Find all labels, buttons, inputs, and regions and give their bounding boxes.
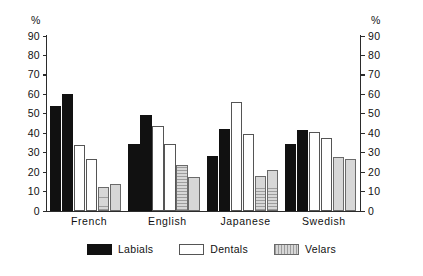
legend-item-dentals: Dentals <box>179 243 248 255</box>
legend-item-labials: Labials <box>87 243 153 255</box>
legend-swatch-icon <box>87 244 112 255</box>
bar-dentals <box>74 145 85 211</box>
left-axis-tick <box>43 172 47 173</box>
right-axis-tick-label: 80 <box>368 50 398 61</box>
baseline-axis <box>46 211 361 212</box>
right-axis-tick-label: 50 <box>368 108 398 119</box>
bar-labials <box>219 129 230 211</box>
bar-labials <box>297 130 308 211</box>
chart-legend: LabialsDentalsVelars <box>0 243 423 255</box>
bar-dentals <box>243 134 254 211</box>
right-axis-tick-label: 30 <box>368 147 398 158</box>
bar-chart: % % 001010202030304040505060607070808090… <box>0 0 423 276</box>
left-axis-tick <box>43 113 47 114</box>
right-axis-tick-label: 60 <box>368 89 398 100</box>
bar-dentals <box>164 144 175 211</box>
left-axis-tick-label: 90 <box>10 31 40 42</box>
left-axis-tick <box>43 94 47 95</box>
legend-swatch-icon <box>179 244 204 255</box>
left-axis-tick <box>43 211 47 212</box>
bar-labials <box>285 144 296 211</box>
left-axis-tick <box>43 74 47 75</box>
bar-velars <box>98 187 109 211</box>
left-axis-tick-label: 40 <box>10 128 40 139</box>
bar-group <box>285 36 363 211</box>
bar-velars <box>110 184 121 211</box>
bar-dentals <box>86 159 97 211</box>
bar-velars <box>176 165 187 211</box>
left-axis-tick <box>43 133 47 134</box>
bar-group <box>50 36 128 211</box>
bar-labials <box>140 115 151 211</box>
bar-velars <box>345 159 356 211</box>
left-axis-tick-label: 0 <box>10 206 40 217</box>
category-label-swedish: Swedish <box>273 215 375 227</box>
left-axis-tick <box>43 191 47 192</box>
bar-labials <box>128 144 139 211</box>
legend-label: Velars <box>305 243 336 255</box>
bar-dentals <box>152 126 163 211</box>
plot-area <box>47 36 360 211</box>
legend-label: Labials <box>118 243 153 255</box>
bar-labials <box>207 156 218 211</box>
left-axis-tick-label: 10 <box>10 186 40 197</box>
left-axis-tick <box>43 152 47 153</box>
bar-velars <box>255 176 266 211</box>
bar-dentals <box>309 132 320 211</box>
bar-velars <box>333 157 344 211</box>
bar-velars <box>267 170 278 211</box>
left-axis-tick-label: 30 <box>10 147 40 158</box>
left-axis-tick-label: 20 <box>10 167 40 178</box>
left-axis-tick <box>43 36 47 37</box>
legend-item-velars: Velars <box>274 243 336 255</box>
legend-label: Dentals <box>210 243 248 255</box>
right-axis-tick-label: 70 <box>368 69 398 80</box>
left-axis-tick <box>43 55 47 56</box>
left-axis-tick-label: 70 <box>10 69 40 80</box>
bar-labials <box>50 106 61 211</box>
right-axis-tick-label: 90 <box>368 31 398 42</box>
right-axis-tick-label: 40 <box>368 128 398 139</box>
bar-group <box>128 36 206 211</box>
left-axis-tick-label: 60 <box>10 89 40 100</box>
legend-swatch-icon <box>274 244 299 255</box>
bar-velars <box>188 177 199 211</box>
bar-dentals <box>231 102 242 211</box>
left-axis-tick-label: 80 <box>10 50 40 61</box>
bar-group <box>207 36 285 211</box>
bar-dentals <box>321 138 332 211</box>
right-axis-tick-label: 20 <box>368 167 398 178</box>
left-axis-unit-label: % <box>31 14 40 26</box>
left-axis-tick-label: 50 <box>10 108 40 119</box>
bar-labials <box>62 94 73 211</box>
right-axis-unit-label: % <box>371 14 380 26</box>
right-axis-tick-label: 10 <box>368 186 398 197</box>
